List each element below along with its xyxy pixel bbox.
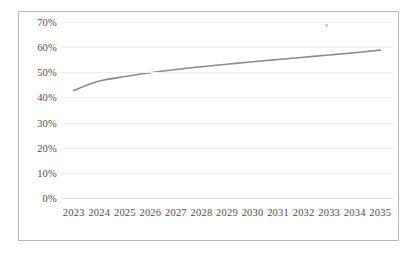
- x-axis-tick-label: 2027: [165, 207, 187, 218]
- y-axis-tick-label: 40%: [37, 92, 57, 103]
- chart-frame: 0%10%20%30%40%50%60%70% 2023202420252026…: [18, 11, 399, 241]
- y-axis-tick-label: 30%: [37, 117, 57, 128]
- x-axis-tick-label: 2031: [267, 207, 289, 218]
- y-axis: 0%10%20%30%40%50%60%70%: [19, 12, 61, 240]
- y-axis-tick-label: 20%: [37, 142, 57, 153]
- x-axis-tick-label: 2026: [139, 207, 161, 218]
- plot-area: [61, 22, 393, 198]
- x-axis-tick-label: 2025: [114, 207, 136, 218]
- x-axis-tick-label: 2035: [369, 207, 391, 218]
- x-axis-tick-label: 2033: [318, 207, 340, 218]
- y-axis-tick-label: 0%: [43, 193, 57, 204]
- x-axis-tick-label: 2030: [242, 207, 264, 218]
- gridline: [61, 22, 393, 23]
- x-axis-tick-label: 2029: [216, 207, 238, 218]
- gridline: [61, 72, 393, 73]
- x-axis: 2023202420252026202720282029203020312032…: [61, 207, 393, 223]
- y-axis-tick-label: 10%: [37, 167, 57, 178]
- line-series: [61, 22, 393, 198]
- x-axis-tick-label: 2023: [63, 207, 85, 218]
- stray-mark-icon: [325, 24, 328, 27]
- chart-plot-wrapper: 0%10%20%30%40%50%60%70% 2023202420252026…: [19, 12, 398, 240]
- gridline: [61, 97, 393, 98]
- gridline: [61, 173, 393, 174]
- y-axis-tick-label: 50%: [37, 67, 57, 78]
- x-axis-tick-label: 2034: [344, 207, 366, 218]
- series-line: [74, 50, 380, 90]
- gridline: [61, 123, 393, 124]
- y-axis-tick-label: 70%: [37, 17, 57, 28]
- y-axis-tick-label: 60%: [37, 42, 57, 53]
- x-axis-tick-label: 2028: [191, 207, 213, 218]
- gridline: [61, 47, 393, 48]
- gridline: [61, 148, 393, 149]
- x-axis-tick-label: 2024: [88, 207, 110, 218]
- x-axis-baseline: [61, 198, 393, 199]
- x-axis-tick-label: 2032: [293, 207, 315, 218]
